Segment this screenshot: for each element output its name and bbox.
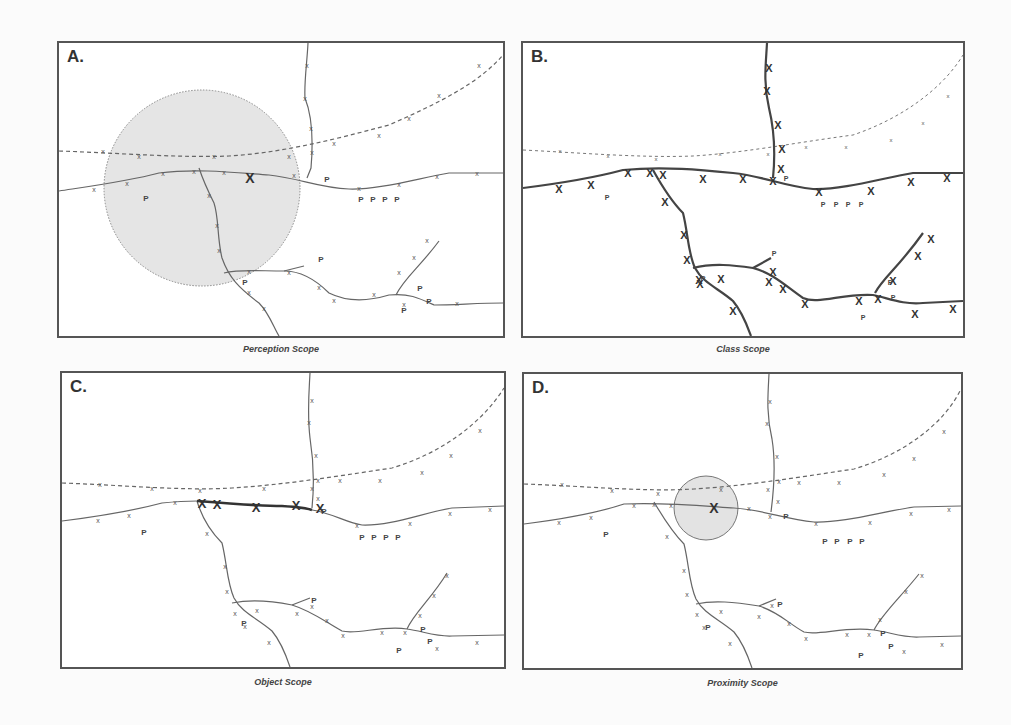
svg-text:P: P <box>395 533 401 542</box>
svg-text:X: X <box>765 62 773 74</box>
svg-text:P: P <box>821 201 826 208</box>
svg-text:X: X <box>659 169 667 181</box>
svg-text:X: X <box>587 179 595 191</box>
svg-text:X: X <box>943 172 951 184</box>
svg-text:P: P <box>417 284 423 293</box>
panel-caption: Object Scope <box>60 677 506 687</box>
svg-text:X: X <box>680 229 688 241</box>
svg-text:x: x <box>757 613 761 620</box>
svg-text:P: P <box>318 255 324 264</box>
svg-text:x: x <box>377 132 381 139</box>
svg-text:x: x <box>775 453 779 460</box>
svg-text:P: P <box>311 596 317 605</box>
svg-text:x: x <box>125 180 129 187</box>
svg-text:x: x <box>607 153 610 159</box>
svg-text:x: x <box>380 629 384 636</box>
svg-text:x: x <box>92 186 96 193</box>
svg-text:x: x <box>303 95 307 102</box>
svg-text:x: x <box>316 495 320 502</box>
svg-text:X: X <box>815 186 823 198</box>
svg-text:x: x <box>372 291 376 298</box>
svg-text:X: X <box>717 273 725 285</box>
svg-text:x: x <box>845 144 848 150</box>
svg-text:P: P <box>426 297 432 306</box>
svg-text:X: X <box>779 283 787 295</box>
svg-text:x: x <box>207 192 211 199</box>
svg-text:X: X <box>292 498 301 513</box>
svg-text:x: x <box>332 297 336 304</box>
panel-caption: Perception Scope <box>57 344 505 354</box>
svg-text:x: x <box>325 617 329 624</box>
svg-text:x: x <box>909 510 913 517</box>
svg-text:x: x <box>397 181 401 188</box>
svg-text:X: X <box>927 233 935 245</box>
svg-text:X: X <box>855 295 863 307</box>
svg-text:X: X <box>252 500 261 515</box>
svg-text:X: X <box>624 167 632 179</box>
svg-text:x: x <box>223 563 227 570</box>
map-d: X xxxxxxxxxx xxxxxxxxxx xxxxxx xxxxx xxx… <box>524 374 961 668</box>
svg-text:x: x <box>685 591 689 598</box>
svg-text:x: x <box>610 487 614 494</box>
panel-caption: Proximity Scope <box>522 678 963 688</box>
svg-text:X: X <box>911 308 919 320</box>
svg-text:P: P <box>888 279 893 286</box>
svg-text:X: X <box>801 298 809 310</box>
panel-b: XXXXXXXXXXXX XXXXX XXXXX XXXXXXXXXX XXX … <box>521 41 965 338</box>
svg-text:x: x <box>357 185 361 192</box>
svg-text:P: P <box>427 637 433 646</box>
svg-text:X: X <box>949 303 957 315</box>
svg-text:x: x <box>767 151 770 157</box>
svg-text:x: x <box>947 93 950 99</box>
svg-text:x: x <box>225 588 229 595</box>
svg-text:x: x <box>787 620 791 627</box>
svg-text:x: x <box>837 479 841 486</box>
svg-text:x: x <box>262 485 266 492</box>
svg-text:X: X <box>769 266 777 278</box>
svg-text:x: x <box>922 120 925 126</box>
svg-text:P: P <box>891 294 896 301</box>
svg-text:x: x <box>947 506 951 513</box>
svg-text:x: x <box>332 140 336 147</box>
svg-text:x: x <box>420 469 424 476</box>
svg-text:x: x <box>940 641 944 648</box>
svg-text:x: x <box>378 477 382 484</box>
svg-text:X: X <box>778 143 786 155</box>
svg-text:P: P <box>861 314 866 321</box>
svg-text:P: P <box>847 537 853 546</box>
svg-text:x: x <box>878 616 882 623</box>
svg-text:P: P <box>396 646 402 655</box>
svg-text:x: x <box>920 572 924 579</box>
svg-text:x: x <box>127 512 131 519</box>
svg-text:x: x <box>287 269 291 276</box>
svg-text:x: x <box>475 170 479 177</box>
svg-text:x: x <box>212 153 216 160</box>
svg-text:X: X <box>914 250 922 262</box>
svg-text:X: X <box>198 496 207 511</box>
svg-text:x: x <box>890 137 893 143</box>
svg-text:x: x <box>477 62 481 69</box>
svg-text:X: X <box>683 254 691 266</box>
svg-text:P: P <box>705 623 711 632</box>
svg-text:x: x <box>316 477 320 484</box>
svg-text:x: x <box>747 505 751 512</box>
svg-text:x: x <box>425 237 429 244</box>
svg-text:P: P <box>359 533 365 542</box>
svg-text:P: P <box>784 175 789 182</box>
svg-text:X: X <box>699 173 707 185</box>
svg-text:x: x <box>292 172 296 179</box>
svg-text:x: x <box>632 502 636 509</box>
svg-text:x: x <box>805 144 808 150</box>
svg-text:x: x <box>173 499 177 506</box>
svg-text:x: x <box>310 397 314 404</box>
map-c: XXXXX xxxxxxxxxx xxxxxxx xxxxx xxxxx xxx… <box>62 373 504 667</box>
svg-text:x: x <box>435 645 439 652</box>
svg-text:x: x <box>776 498 780 505</box>
svg-text:x: x <box>435 173 439 180</box>
svg-text:P: P <box>880 629 886 638</box>
panel-label: C. <box>70 377 87 397</box>
map-a: xxxxxxxxx xxxxxxxxxx xxxx xxxxx xxxxxxx … <box>59 43 503 336</box>
svg-text:x: x <box>317 284 321 291</box>
svg-text:x: x <box>267 639 271 646</box>
svg-text:P: P <box>401 306 407 315</box>
